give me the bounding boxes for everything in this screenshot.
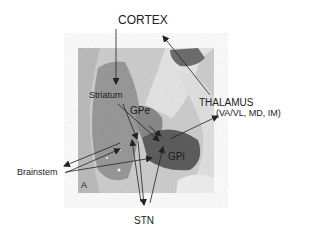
brain-section-photo	[78, 48, 214, 193]
thalamus-label: THALAMUS	[199, 98, 253, 108]
gpi-label: GPi	[168, 152, 185, 162]
brainstem-label: Brainstem	[17, 168, 58, 177]
cortex-label: CORTEX	[118, 14, 168, 26]
thalamus-nuclei-label: (VA/VL, MD, IM)	[216, 109, 281, 118]
stn-label: STN	[134, 216, 154, 226]
panel-letter: A	[81, 181, 87, 190]
striatum-label: Striatum	[89, 91, 123, 100]
gpe-label: GPe	[130, 106, 150, 116]
histology-section-image	[0, 0, 314, 241]
basal-ganglia-figure: CORTEX Striatum GPe GPi THALAMUS (VA/VL,…	[0, 0, 314, 241]
